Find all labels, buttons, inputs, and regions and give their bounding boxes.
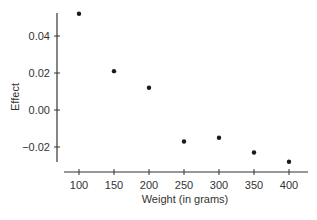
x-tick-label: 250 (175, 179, 193, 191)
data-point (147, 86, 151, 90)
y-axis: 0.040.020.00−0.02 (22, 13, 60, 162)
y-tick-label: 0.02 (29, 67, 50, 79)
x-tick-label: 400 (280, 179, 298, 191)
y-tick-label: 0.00 (29, 104, 50, 116)
data-point (112, 69, 116, 73)
x-tick-label: 150 (105, 179, 123, 191)
data-point (217, 136, 221, 140)
data-point (77, 12, 81, 16)
y-axis-label: Effect (9, 83, 21, 111)
scatter-chart: 0.040.020.00−0.02 100150200250300350400 … (0, 0, 317, 220)
data-point (287, 160, 291, 164)
data-point (252, 150, 256, 154)
data-points (77, 12, 291, 164)
y-tick-label: 0.04 (29, 30, 50, 42)
x-tick-label: 300 (210, 179, 228, 191)
x-axis: 100150200250300350400 (64, 169, 308, 191)
data-point (182, 139, 186, 143)
x-axis-label: Weight (in grams) (142, 193, 229, 205)
y-tick-label: −0.02 (22, 141, 50, 153)
x-tick-label: 100 (70, 179, 88, 191)
x-tick-label: 200 (140, 179, 158, 191)
x-tick-label: 350 (245, 179, 263, 191)
